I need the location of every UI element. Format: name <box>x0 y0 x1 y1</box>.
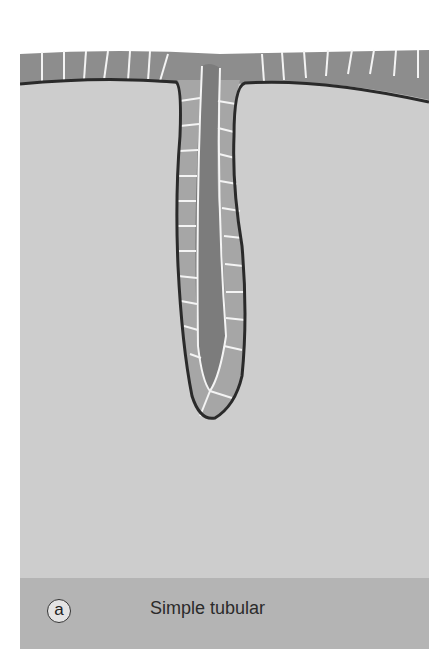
caption-text: Simple tubular <box>150 598 265 619</box>
caption-band: a Simple tubular <box>20 578 429 649</box>
panel-label-badge: a <box>47 599 71 623</box>
simple-tubular-gland-diagram <box>20 46 429 649</box>
gland-illustration <box>20 46 429 649</box>
